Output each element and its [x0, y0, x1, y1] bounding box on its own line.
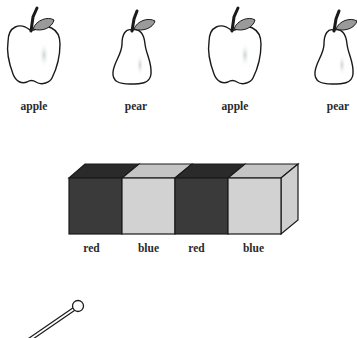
- fruit-label-apple: apple: [209, 99, 261, 113]
- apple-icon: [7, 8, 60, 84]
- cube-label-red: red: [69, 241, 114, 255]
- cube-label-red: red: [174, 241, 219, 255]
- cube-label-blue: blue: [126, 241, 171, 255]
- cube-front-red: [69, 178, 122, 234]
- cube-row: [69, 164, 298, 234]
- apple-icon: [208, 8, 261, 84]
- pear-icon: [113, 11, 155, 84]
- illustration-canvas: [0, 0, 357, 338]
- fruit-label-pear: pear: [110, 99, 162, 113]
- fruit-label-apple: apple: [8, 99, 60, 113]
- cube-label-blue: blue: [231, 241, 276, 255]
- cube-front-blue: [122, 178, 175, 234]
- pin-icon: [26, 301, 84, 338]
- fruit-label-pear: pear: [312, 99, 357, 113]
- cube-front-red: [175, 178, 228, 234]
- pear-icon: [315, 11, 357, 84]
- cube-front-blue: [228, 178, 281, 234]
